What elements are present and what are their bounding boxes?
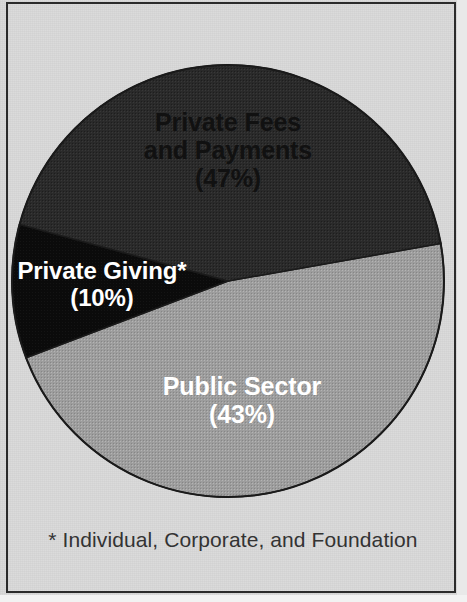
pie-chart-area: Private Fees and Payments (47%) Private … — [0, 0, 467, 602]
pie-chart-figure: Private Fees and Payments (47%) Private … — [0, 0, 467, 602]
pie-chart-svg — [0, 0, 467, 602]
figure-footnote: * Individual, Corporate, and Foundation — [10, 528, 456, 552]
